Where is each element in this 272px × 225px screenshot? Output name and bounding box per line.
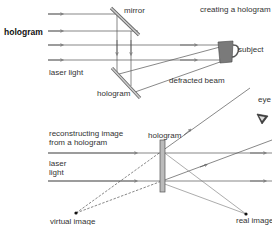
label-reconstructing-1: reconstructing image (49, 129, 123, 138)
label-real-image: real image (236, 216, 272, 225)
hologram-diagram: hologram creating a hologram mirror subj… (0, 0, 272, 225)
label-hologram-bottom: hologram (148, 131, 181, 140)
hologram-plate-bottom (160, 140, 165, 192)
title-creating-hologram: creating a hologram (200, 5, 271, 14)
virtual-image-point (74, 211, 77, 214)
label-laser-bottom-1: laser (49, 159, 66, 168)
laser-rays-top (48, 14, 220, 60)
title-hologram: hologram (4, 28, 43, 37)
label-hologram-top: hologram (97, 89, 130, 98)
label-laser-light-top: laser light (49, 68, 83, 77)
subject-mug (218, 41, 238, 63)
eye-icon (257, 114, 268, 124)
label-reconstructing-2: from a hologram (49, 138, 107, 147)
label-laser-bottom-2: light (49, 168, 64, 177)
label-eye: eye (258, 95, 271, 104)
label-mirror: mirror (124, 6, 145, 15)
label-virtual-image: virtual image (50, 217, 95, 225)
label-defracted-beam: defracted beam (169, 76, 225, 85)
label-subject: subject (238, 45, 263, 54)
